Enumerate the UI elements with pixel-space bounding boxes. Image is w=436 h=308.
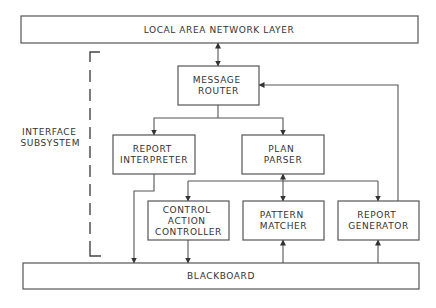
node-message-router: MESSAGE ROUTER — [178, 66, 259, 105]
blackboard-label: BLACKBOARD — [187, 271, 255, 281]
node-lan: LOCAL AREA NETWORK LAYER — [21, 16, 418, 43]
interface-subsystem-line-1: INTERFACE — [22, 127, 77, 137]
pattern-matcher-label: PATTERN MATCHER — [260, 210, 308, 231]
interface-subsystem-label: INTERFACE SUBSYSTEM — [20, 127, 80, 148]
node-blackboard: BLACKBOARD — [23, 263, 419, 289]
node-report-interpreter: REPORT INTERPRETER — [113, 135, 195, 174]
interface-subsystem-bracket — [90, 52, 101, 256]
edge-router-parser — [218, 118, 283, 135]
lan-label: LOCAL AREA NETWORK LAYER — [144, 25, 295, 35]
node-pattern-matcher: PATTERN MATCHER — [243, 201, 324, 240]
report-generator-label: REPORT GENERATOR — [348, 210, 409, 231]
interface-subsystem-line-2: SUBSYSTEM — [20, 138, 80, 148]
node-report-generator: REPORT GENERATOR — [338, 201, 419, 240]
plan-parser-label: PLAN PARSER — [264, 144, 303, 165]
node-plan-parser: PLAN PARSER — [242, 135, 324, 174]
edge-router-interpreter — [154, 118, 218, 135]
message-router-label: MESSAGE ROUTER — [193, 75, 244, 96]
architecture-diagram: INTERFACE SUBSYSTEM LOCAL AREA NETWORK L… — [0, 0, 436, 308]
node-control-action-controller: CONTROL ACTION CONTROLLER — [148, 201, 229, 240]
